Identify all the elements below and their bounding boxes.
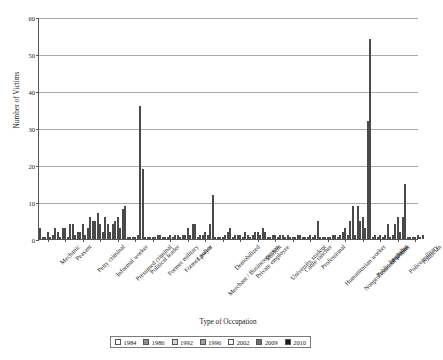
x-axis-tick-label: Journalist (386, 243, 409, 266)
x-axis-tick-mark (205, 239, 206, 242)
bar-group (144, 18, 162, 239)
x-axis-tick-mark (170, 239, 171, 242)
bar-group (407, 18, 425, 239)
x-axis-tick-mark (65, 239, 66, 242)
legend-item: 2010 (285, 339, 306, 346)
y-axis-title: Number of Victims (13, 45, 21, 155)
legend-item: 2009 (256, 339, 277, 346)
x-axis-tick-mark (100, 239, 101, 242)
bar (422, 235, 424, 239)
legend-swatch (172, 339, 178, 345)
bar-group (179, 18, 197, 239)
x-axis-tick-mark (118, 239, 119, 242)
x-axis-tick-mark (328, 239, 329, 242)
x-axis-tick-mark (363, 239, 364, 242)
y-axis-tick-label: 40 (28, 89, 35, 96)
bar-group (109, 18, 127, 239)
x-axis-tick-mark (258, 239, 259, 242)
y-axis-tick-mark (36, 240, 39, 241)
y-axis-tick-label: 50 (28, 52, 35, 59)
legend-label: 2009 (265, 339, 278, 346)
x-axis-tick-mark (188, 239, 189, 242)
legend-item: 1996 (200, 339, 221, 346)
x-axis-tick-mark (275, 239, 276, 242)
legend-label: 2002 (237, 339, 250, 346)
x-axis-tick-mark (293, 239, 294, 242)
bar-group (197, 18, 215, 239)
x-axis-tick-mark (345, 239, 346, 242)
x-axis-tick-mark (223, 239, 224, 242)
plot-area: 0102030405060 (38, 18, 418, 240)
bar-groups (39, 18, 418, 239)
bar-group (319, 18, 337, 239)
legend-swatch (285, 339, 291, 345)
legend-swatch (143, 339, 149, 345)
x-axis-tick-labels: MechanicPeasantPetty criminalInformal wo… (38, 243, 418, 315)
legend-item: 1984 (115, 339, 136, 346)
bar-group (354, 18, 372, 239)
chart-legend: 1984198619921996200220092010 (110, 336, 311, 348)
bar-group (232, 18, 250, 239)
bar-group (92, 18, 110, 239)
bar-group (57, 18, 75, 239)
legend-label: 1986 (152, 339, 165, 346)
x-axis-title: Type of Occupation (38, 318, 418, 326)
bar-group (162, 18, 180, 239)
x-axis-tick-mark (135, 239, 136, 242)
bar-group (127, 18, 145, 239)
legend-swatch (115, 339, 121, 345)
bar-group (249, 18, 267, 239)
legend-swatch (256, 339, 262, 345)
x-axis-tick-mark (83, 239, 84, 242)
bar-group (74, 18, 92, 239)
legend-item: 1986 (143, 339, 164, 346)
x-axis-tick-mark (398, 239, 399, 242)
legend-label: 1984 (124, 339, 137, 346)
bar-group (302, 18, 320, 239)
legend-item: 1992 (172, 339, 193, 346)
x-axis-tick-mark (310, 239, 311, 242)
legend-swatch (200, 339, 206, 345)
bar-group (389, 18, 407, 239)
legend-swatch (228, 339, 234, 345)
legend-item: 2002 (228, 339, 249, 346)
y-axis-tick-label: 60 (28, 15, 35, 22)
legend-label: 2010 (293, 339, 306, 346)
legend-label: 1996 (208, 339, 221, 346)
y-axis-tick-label: 10 (28, 200, 35, 207)
legend-label: 1992 (180, 339, 193, 346)
x-axis-tick-mark (380, 239, 381, 242)
y-axis-tick-label: 30 (28, 126, 35, 133)
bar-group (267, 18, 285, 239)
y-axis-tick-label: 20 (28, 163, 35, 170)
bar-group (372, 18, 390, 239)
bar-group (39, 18, 57, 239)
bar-group (337, 18, 355, 239)
x-axis-tick-mark (415, 239, 416, 242)
y-axis-tick-label: 0 (32, 237, 35, 244)
x-axis-tick-label: Humanitarian worker (343, 243, 387, 287)
x-axis-tick-mark (153, 239, 154, 242)
x-axis-tick-mark (240, 239, 241, 242)
x-axis-tick-mark (48, 239, 49, 242)
bar-group (214, 18, 232, 239)
bar-group (284, 18, 302, 239)
